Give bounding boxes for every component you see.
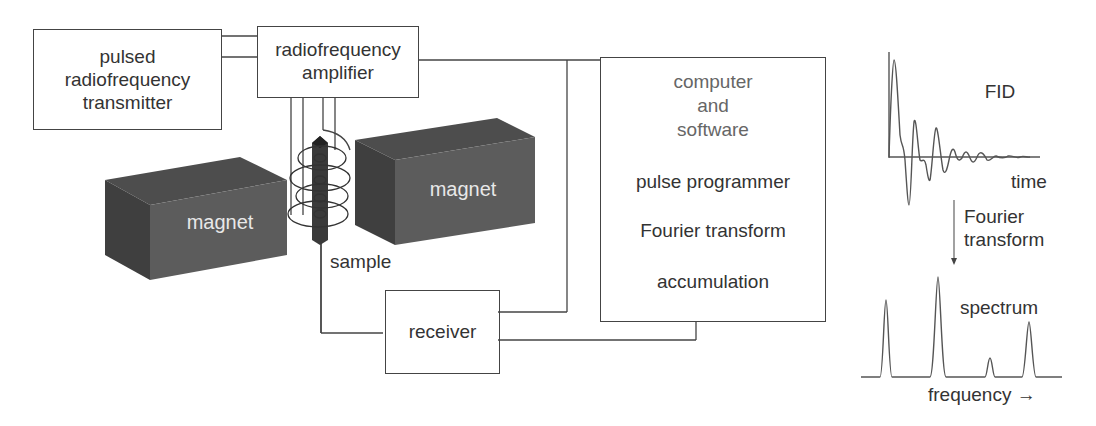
transmitter-line-3: transmitter: [33, 91, 222, 114]
fourier-line-2: transform: [964, 228, 1044, 251]
computer-header-line-2: and: [600, 94, 826, 118]
spectrum-xlabel: frequency →: [928, 383, 1036, 406]
amplifier-line-2: amplifier: [257, 61, 419, 84]
spectrum-xlabel-text: frequency: [928, 384, 1011, 405]
amplifier-label: radiofrequency amplifier: [257, 38, 419, 84]
magnet-left-label: magnet: [165, 211, 275, 234]
computer-header: computer and software: [600, 70, 826, 142]
amplifier-line-1: radiofrequency: [257, 38, 419, 61]
receiver-label: receiver: [385, 320, 500, 343]
transmitter-line-2: radiofrequency: [33, 68, 222, 91]
arrow-right-icon: →: [1017, 384, 1036, 405]
fid-xlabel: time: [1004, 170, 1054, 193]
fourier-line-1: Fourier: [964, 205, 1044, 228]
computer-function-fourier-transform: Fourier transform: [600, 219, 826, 242]
computer-function-pulse-programmer: pulse programmer: [600, 170, 826, 193]
sample-label: sample: [330, 250, 400, 273]
computer-header-line-1: computer: [600, 70, 826, 94]
magnet-right-label: magnet: [408, 178, 518, 201]
spectrum-plot: [861, 277, 1062, 377]
transmitter-label: pulsed radiofrequency transmitter: [33, 45, 222, 114]
computer-header-line-3: software: [600, 118, 826, 142]
computer-function-accumulation: accumulation: [600, 270, 826, 293]
fourier-transform-label: Fourier transform: [964, 205, 1044, 251]
spectrum-title: spectrum: [954, 296, 1044, 319]
fid-title: FID: [970, 80, 1030, 103]
transmitter-line-1: pulsed: [33, 45, 222, 68]
